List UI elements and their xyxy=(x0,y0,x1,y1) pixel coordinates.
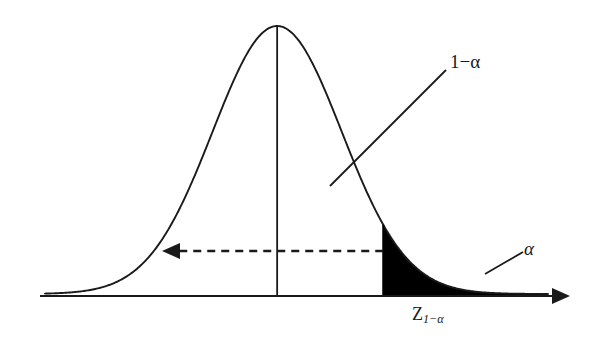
confidence-label-leader-line xyxy=(330,70,446,186)
axis-arrow-icon xyxy=(552,288,570,304)
axis-group xyxy=(40,288,570,304)
critical-value-letter: Z xyxy=(412,304,423,324)
acceptance-region-arrow xyxy=(162,243,383,259)
distribution-chart-canvas xyxy=(0,0,589,346)
confidence-region-label: 1−α xyxy=(450,52,480,71)
normal-distribution-figure: 1−α α Z1−α xyxy=(0,0,589,346)
dashed-arrow-head-icon xyxy=(162,243,180,259)
critical-value-subscript: 1−α xyxy=(423,312,444,326)
tail-region-label: α xyxy=(524,239,534,258)
critical-value-label: Z1−α xyxy=(412,305,444,325)
tail-label-leader-line xyxy=(485,252,523,274)
